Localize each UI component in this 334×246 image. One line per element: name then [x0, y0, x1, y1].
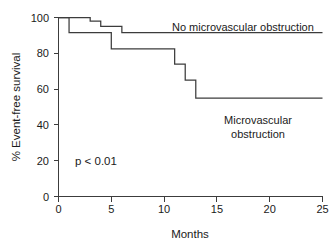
y-tick-label-0: 0	[43, 191, 49, 203]
x-tick-label-10: 10	[158, 203, 170, 215]
y-tick-label-100: 100	[31, 12, 49, 24]
x-tick-label-15: 15	[211, 203, 223, 215]
x-tick-label-25: 25	[316, 203, 328, 215]
y-tick-label-80: 80	[37, 47, 49, 59]
x-tick-label-0: 0	[55, 203, 61, 215]
y-tick-label-60: 60	[37, 83, 49, 95]
y-axis-title: % Event-free survival	[10, 53, 22, 162]
series-label-no-obstruction: No microvascular obstruction	[172, 21, 314, 33]
x-axis-title: Months	[171, 228, 209, 240]
x-tick-label-5: 5	[108, 203, 114, 215]
series-label-obstruction-line2: obstruction	[231, 128, 285, 140]
kaplan-meier-plot: 0 20 40 60 80 100 0 5 10 15 20 25 Months…	[0, 0, 334, 246]
y-tick-label-40: 40	[37, 119, 49, 131]
x-tick-label-20: 20	[264, 203, 276, 215]
p-value-annotation: p < 0.01	[75, 155, 117, 167]
y-tick-label-20: 20	[37, 155, 49, 167]
survival-curve-figure: 0 20 40 60 80 100 0 5 10 15 20 25 Months…	[0, 0, 334, 246]
series-label-obstruction-line1: Microvascular	[224, 114, 292, 126]
